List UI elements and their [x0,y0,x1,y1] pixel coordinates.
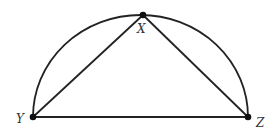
label-z: Z [255,116,265,130]
label-x: X [136,22,146,36]
point-y [30,114,37,121]
segment-yx [33,15,143,117]
point-z [245,114,252,121]
point-x [140,12,147,19]
semicircle-triangle-diagram: X Y Z [0,0,277,133]
label-y: Y [16,112,25,126]
